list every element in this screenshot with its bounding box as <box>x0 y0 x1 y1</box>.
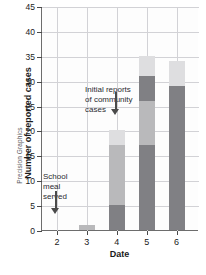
y-axis-tick-label: 30 <box>26 77 35 87</box>
bar-segment <box>169 61 185 86</box>
y-axis-tick-label: 5 <box>30 201 35 211</box>
x-axis-title: Date <box>41 249 198 259</box>
y-axis-tick-label: 20 <box>26 126 35 136</box>
y-axis-tick <box>37 231 42 232</box>
bar-segment <box>139 76 155 101</box>
x-axis-tick-label: 5 <box>144 237 149 247</box>
y-axis-tick-label: 0 <box>30 226 35 236</box>
y-axis-tick <box>37 82 42 83</box>
y-axis-tick <box>37 156 42 157</box>
y-axis-tick <box>37 107 42 108</box>
bar-6[interactable] <box>169 6 185 230</box>
x-axis-tick <box>147 231 148 235</box>
y-axis-tick <box>37 206 42 207</box>
bar-4[interactable] <box>109 6 125 230</box>
bar-segment <box>109 205 125 230</box>
x-axis-tick-label: 2 <box>54 237 59 247</box>
y-axis-tick-label: 25 <box>26 102 35 112</box>
annotation-community-cases: Initial reports of community cases <box>85 85 133 114</box>
bar-segment <box>109 145 125 205</box>
bar-segment <box>139 101 155 146</box>
x-axis-tick <box>117 231 118 235</box>
x-axis-tick-label: 6 <box>174 237 179 247</box>
y-axis-tick <box>37 32 42 33</box>
x-axis-tick <box>57 231 58 235</box>
y-axis-tick-label: 10 <box>26 176 35 186</box>
bar-5[interactable] <box>139 6 155 230</box>
bar-segment <box>169 111 185 230</box>
y-axis-tick <box>37 57 42 58</box>
chart-root: Precision Graphics Number of reported ca… <box>0 0 206 275</box>
y-axis-tick-label: 40 <box>26 27 35 37</box>
y-axis-tick <box>37 131 42 132</box>
x-axis-tick-label: 3 <box>84 237 89 247</box>
bar-segment <box>169 86 185 111</box>
y-axis-tick <box>37 7 42 8</box>
y-axis-tick-label: 15 <box>26 151 35 161</box>
x-axis-tick <box>87 231 88 235</box>
precision-graphics-credit: Precision Graphics <box>16 108 23 204</box>
bar-segment <box>79 225 95 230</box>
bar-segment <box>109 130 125 145</box>
x-axis-tick-label: 4 <box>114 237 119 247</box>
y-axis-tick <box>37 181 42 182</box>
bar-3[interactable] <box>79 6 95 230</box>
bar-segment <box>139 56 155 76</box>
y-axis-tick-label: 45 <box>26 2 35 12</box>
bar-segment <box>139 145 155 230</box>
y-axis-tick-label: 35 <box>26 52 35 62</box>
x-axis-tick <box>177 231 178 235</box>
